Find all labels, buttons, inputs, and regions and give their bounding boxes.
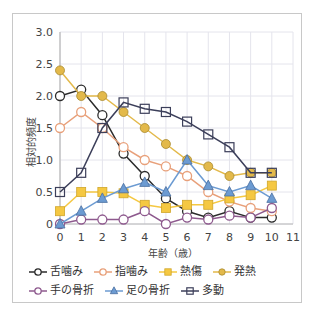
legend-item: 舌噛み [28, 262, 83, 281]
x-tick-label: 11 [286, 231, 300, 244]
x-tick-label: 8 [226, 231, 233, 244]
y-tick-label: 1.0 [36, 154, 54, 167]
legend-row: 手の骨折足の骨折多動 [28, 281, 298, 300]
legend-item: 発熱 [212, 262, 256, 281]
x-tick-label: 4 [141, 231, 148, 244]
legend-item: 足の骨折 [104, 281, 170, 300]
legend-label: 足の骨折 [126, 281, 170, 300]
legend-item: 手の骨折 [28, 281, 94, 300]
y-tick-label: 0.5 [36, 186, 54, 199]
x-tick-label: 7 [205, 231, 212, 244]
y-tick-label: 1.5 [36, 122, 54, 135]
x-tick-label: 10 [265, 231, 279, 244]
legend-item: 熱傷 [158, 262, 202, 281]
legend-item: 指噛み [93, 262, 148, 281]
y-tick-label: 2.5 [36, 58, 54, 71]
legend-item: 多動 [180, 281, 224, 300]
legend-label: 熱傷 [180, 262, 202, 281]
x-tick-label: 5 [162, 231, 169, 244]
legend-label: 発熱 [234, 262, 256, 281]
grid [60, 32, 293, 224]
legend-marker-icon [158, 266, 178, 278]
legend-label: 舌噛み [50, 262, 83, 281]
legend-label: 手の骨折 [50, 281, 94, 300]
y-tick-label: 3.0 [36, 26, 54, 39]
legend-marker-icon [180, 285, 200, 297]
legend-marker-icon [212, 266, 232, 278]
legend-label: 多動 [202, 281, 224, 300]
legend-marker-icon [28, 266, 48, 278]
legend-marker-icon [104, 285, 124, 297]
legend-label: 指噛み [115, 262, 148, 281]
legend-row: 舌噛み指噛み熱傷発熱 [28, 262, 298, 281]
y-tick-label: 2.0 [36, 90, 54, 103]
chart-legend: 舌噛み指噛み熱傷発熱 手の骨折足の骨折多動 [28, 262, 298, 300]
legend-marker-icon [93, 266, 113, 278]
x-tick-label: 0 [57, 231, 64, 244]
x-tick-label: 9 [247, 231, 254, 244]
legend-marker-icon [28, 285, 48, 297]
x-tick-label: 3 [120, 231, 127, 244]
y-axis-label: 相対的頻度 [25, 117, 37, 167]
x-tick-label: 6 [184, 231, 191, 244]
x-tick-label: 1 [78, 231, 85, 244]
x-axis-label: 年齢（歳） [148, 247, 198, 259]
y-tick-label: 0 [46, 218, 53, 231]
x-tick-label: 2 [99, 231, 106, 244]
